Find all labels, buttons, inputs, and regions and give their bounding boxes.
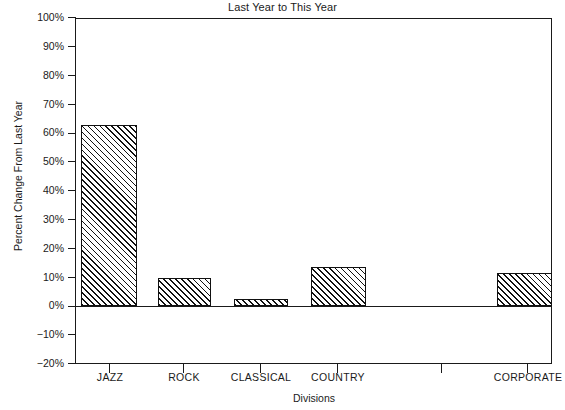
- y-tick-mark: [68, 248, 76, 249]
- y-tick-label: 100%: [8, 11, 64, 23]
- bar-rock[interactable]: [158, 278, 211, 307]
- y-tick-label: 20%: [8, 242, 64, 254]
- zero-baseline: [75, 306, 552, 307]
- y-tick-mark: [68, 17, 76, 18]
- x-tick-label: COUNTRY: [278, 371, 398, 383]
- y-tick-label: −20%: [8, 357, 64, 369]
- y-tick-label: −10%: [8, 328, 64, 340]
- bar-classical[interactable]: [234, 299, 288, 306]
- y-tick-label: 30%: [8, 213, 64, 225]
- y-tick-mark: [68, 277, 76, 278]
- bar-country[interactable]: [311, 267, 366, 306]
- y-tick-label: 70%: [8, 98, 64, 110]
- y-tick-label: 40%: [8, 184, 64, 196]
- y-tick-mark: [68, 104, 76, 105]
- y-tick-mark: [68, 46, 76, 47]
- y-tick-label: 0%: [8, 299, 64, 311]
- y-tick-label: 50%: [8, 155, 64, 167]
- bar-jazz[interactable]: [81, 125, 137, 306]
- y-tick-label: 60%: [8, 126, 64, 138]
- y-tick-label: 80%: [8, 69, 64, 81]
- y-tick-mark: [68, 75, 76, 76]
- y-tick-mark: [68, 161, 76, 162]
- chart-title: Last Year to This Year: [0, 1, 565, 13]
- y-tick-mark: [68, 363, 76, 364]
- y-tick-mark: [68, 219, 76, 220]
- x-tick-mark: [441, 364, 442, 373]
- y-tick-mark: [68, 190, 76, 191]
- bar-corporate[interactable]: [497, 273, 552, 306]
- x-axis-title: Divisions: [75, 392, 553, 404]
- y-tick-label: 10%: [8, 271, 64, 283]
- y-tick-mark: [68, 133, 76, 134]
- y-tick-mark: [68, 334, 76, 335]
- x-tick-label: CORPORATE: [468, 371, 565, 383]
- bar-chart: Last Year to This Year Percent Change Fr…: [0, 0, 565, 410]
- plot-area: [75, 18, 552, 364]
- y-tick-label: 90%: [8, 40, 64, 52]
